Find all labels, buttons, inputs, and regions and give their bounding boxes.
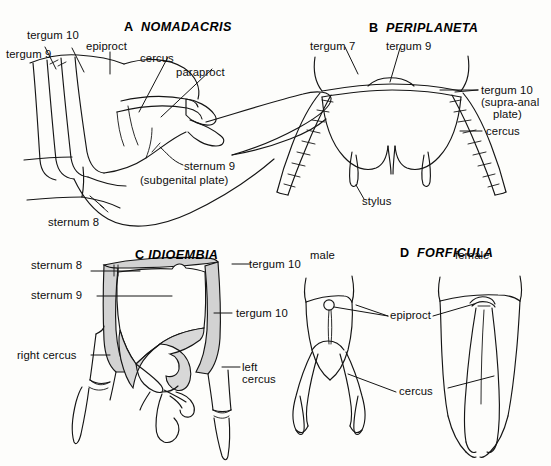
label-a-epiproct: epiproct (86, 40, 127, 52)
label-b-supra-anal: (supra-anal (481, 96, 539, 108)
label-d-male: male (310, 249, 335, 261)
panel-c-title: C IDIOEMBIA (121, 234, 218, 276)
label-b-stylus: stylus (362, 195, 391, 207)
label-a-cercus: cercus (140, 52, 174, 64)
label-c-left-cercus-1: left (242, 361, 257, 373)
label-b-tergum-9: tergum 9 (386, 40, 431, 52)
panel-c-genus: IDIOEMBIA (148, 248, 218, 262)
panel-c-drawing (72, 257, 250, 459)
label-d-epiproct: epiproct (390, 309, 431, 321)
label-d-cercus: cercus (399, 385, 433, 397)
label-c-tergum-10-lower: tergum 10 (236, 307, 288, 319)
panel-b-genus: PERIPLANETA (386, 21, 478, 35)
label-b-plate: plate) (493, 108, 522, 120)
label-c-tergum-10-upper: tergum 10 (249, 258, 301, 270)
label-b-cercus: cercus (486, 125, 520, 137)
label-c-sternum-8: sternum 8 (31, 259, 82, 271)
panel-d-drawing (293, 276, 522, 457)
figure-plate: A NOMADACRIS tergum 10 tergum 9 epiproct… (0, 0, 551, 466)
panel-b-letter: B (369, 21, 378, 35)
label-c-right-cercus: right cercus (17, 349, 77, 361)
label-a-tergum-10: tergum 10 (27, 29, 79, 41)
label-b-tergum-7: tergum 7 (310, 40, 355, 52)
label-a-sternum-9-note: (subgenital plate) (140, 174, 228, 186)
panel-a-genus: NOMADACRIS (141, 20, 232, 34)
label-a-sternum-9: sternum 9 (184, 160, 235, 172)
label-b-tergum-10: tergum 10 (481, 84, 533, 96)
label-c-sternum-9: sternum 9 (31, 289, 82, 301)
label-a-paraproct: paraproct (176, 66, 225, 78)
panel-a-title: A NOMADACRIS (110, 6, 232, 48)
panel-d-letter: D (400, 246, 409, 260)
panel-c-letter: C (135, 248, 144, 262)
panel-a-letter: A (124, 20, 133, 34)
label-a-sternum-8: sternum 8 (48, 216, 99, 228)
label-a-tergum-9: tergum 9 (6, 48, 51, 60)
label-d-female: female (455, 249, 490, 261)
panel-b-drawing (277, 47, 506, 199)
label-c-left-cercus-2: cercus (242, 373, 276, 385)
